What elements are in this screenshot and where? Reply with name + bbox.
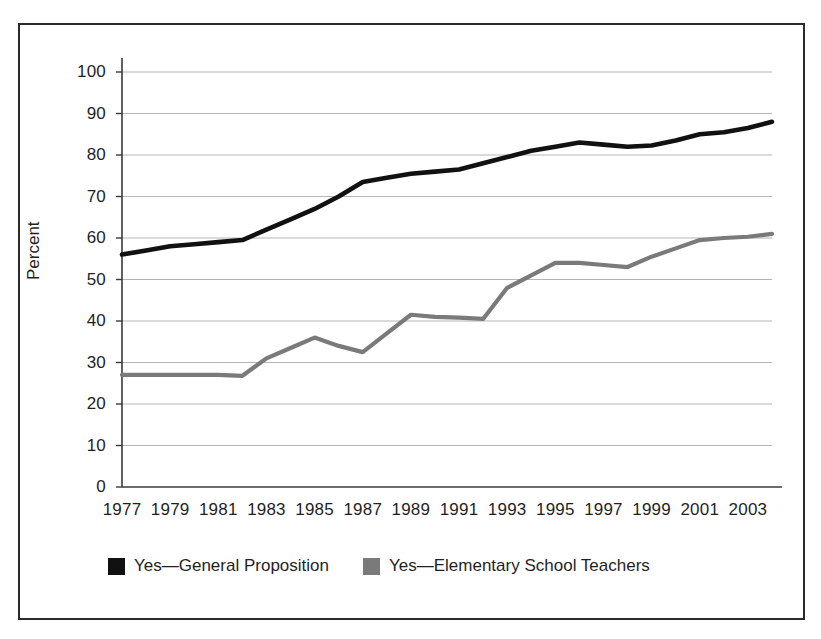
legend-label: Yes—General Proposition [134,556,329,576]
y-tick-label: 10 [58,436,106,456]
y-tick-label: 70 [58,187,106,207]
x-tick-label: 1977 [103,500,142,520]
x-tick-label: 2003 [729,500,768,520]
y-tick-label: 40 [58,311,106,331]
x-tick-label: 1993 [488,500,527,520]
x-tick-label: 1981 [199,500,238,520]
x-tick-label: 1987 [343,500,382,520]
y-tick-label: 80 [58,145,106,165]
figure-root: 0102030405060708090100 19771979198119831… [0,0,821,639]
x-tick-label: 1989 [392,500,431,520]
x-tick-label: 1985 [295,500,334,520]
y-tick-label: 90 [58,104,106,124]
y-tick-label: 100 [58,62,106,82]
y-tick-label: 50 [58,270,106,290]
x-tick-label: 1979 [151,500,190,520]
y-tick-label: 30 [58,353,106,373]
chart-frame [18,23,805,620]
legend-swatch-icon [363,558,380,575]
legend-entry: Yes—Elementary School Teachers [363,556,650,576]
legend-entry: Yes—General Proposition [108,556,329,576]
legend-swatch-icon [108,558,125,575]
legend-label: Yes—Elementary School Teachers [389,556,650,576]
x-tick-label: 1997 [584,500,623,520]
x-tick-label: 1999 [632,500,671,520]
x-tick-label: 1991 [440,500,479,520]
y-tick-label: 60 [58,228,106,248]
x-tick-label: 2001 [680,500,719,520]
y-tick-label: 20 [58,394,106,414]
x-tick-label: 1983 [247,500,286,520]
chart-legend: Yes—General PropositionYes—Elementary Sc… [108,556,650,576]
x-tick-label: 1995 [536,500,575,520]
y-axis-title: Percent [24,221,44,280]
y-tick-label: 0 [58,477,106,497]
